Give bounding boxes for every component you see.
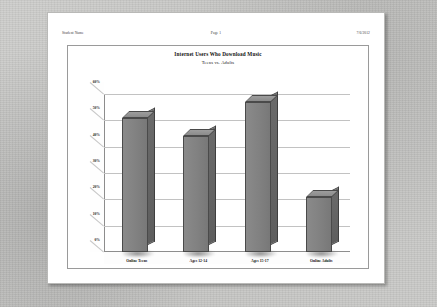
- y-tick-label: 30%: [93, 159, 100, 163]
- gridline: [104, 94, 350, 95]
- document-page: Student Name Page 1 7/6/2012 Internet Us…: [47, 12, 385, 284]
- bar-side-face: [271, 91, 278, 245]
- chart-subtitle: Teens vs. Adults: [68, 60, 368, 65]
- bar-side-face: [148, 107, 155, 245]
- y-tick-label: 50%: [93, 106, 100, 110]
- bar-front-face: [245, 102, 271, 252]
- x-tick-label: Online Teens: [126, 259, 147, 263]
- bar-front-face: [306, 197, 332, 252]
- header-page-number: Page 1: [62, 31, 370, 35]
- y-tick-label: 20%: [93, 185, 100, 189]
- chart-title: Internet Users Who Download Music: [68, 51, 368, 57]
- bar-side-face: [209, 126, 216, 245]
- plot-area: 0%10%20%30%40%50%60% Online TeensAges 12…: [104, 94, 350, 252]
- chart-frame: Internet Users Who Download Music Teens …: [67, 45, 369, 269]
- y-tick-label: 0%: [94, 238, 100, 242]
- x-tick-label: Ages 15-17: [251, 259, 269, 263]
- y-tick-label: 10%: [93, 212, 100, 216]
- page-header: Student Name Page 1 7/6/2012: [62, 28, 370, 38]
- bar-front-face: [122, 118, 148, 252]
- x-tick-label: Online Adults: [310, 259, 332, 263]
- y-tick-label: 60%: [93, 80, 100, 84]
- x-tick-label: Ages 12-14: [189, 259, 207, 263]
- y-tick-label: 40%: [93, 133, 100, 137]
- bar-front-face: [183, 136, 209, 252]
